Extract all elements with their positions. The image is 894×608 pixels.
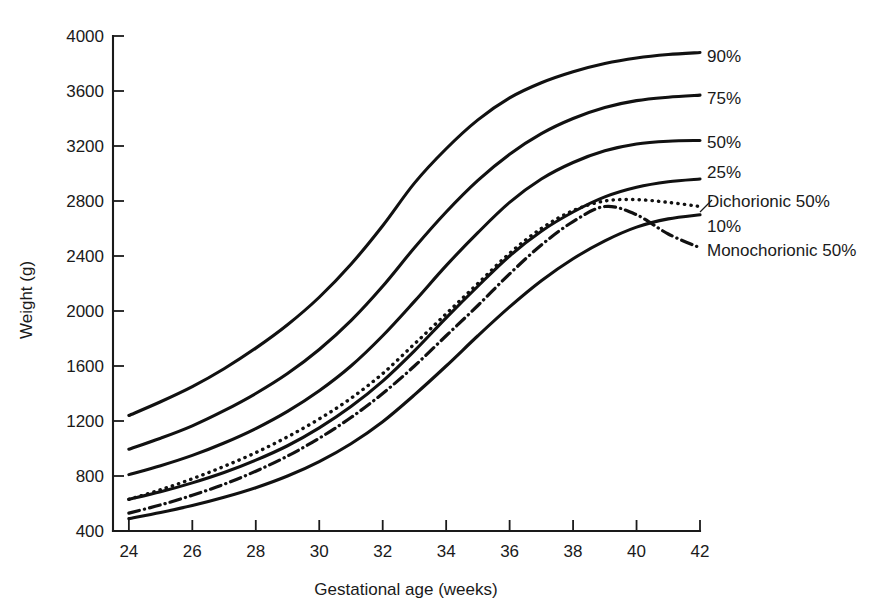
y-tick-label: 2800 — [66, 192, 104, 211]
x-tick-label: 34 — [437, 542, 456, 561]
y-tick-label: 1200 — [66, 412, 104, 431]
x-tick-label: 36 — [500, 542, 519, 561]
x-tick-label: 26 — [183, 542, 202, 561]
y-tick-label: 400 — [76, 522, 104, 541]
y-tick-label: 2400 — [66, 247, 104, 266]
series-label-dichorionic-50: Dichorionic 50% — [707, 192, 830, 211]
series-label-50: 50% — [707, 133, 741, 152]
x-tick-label: 42 — [691, 542, 710, 561]
x-tick-label: 38 — [564, 542, 583, 561]
y-tick-label: 4000 — [66, 27, 104, 46]
y-tick-label: 2000 — [66, 302, 104, 321]
series-label-25: 25% — [707, 163, 741, 182]
y-tick-label: 800 — [76, 467, 104, 486]
x-tick-label: 24 — [119, 542, 138, 561]
x-tick-label: 28 — [246, 542, 265, 561]
x-tick-label: 30 — [310, 542, 329, 561]
series-label-90: 90% — [707, 47, 741, 66]
y-tick-label: 1600 — [66, 357, 104, 376]
growth-chart-figure: Weight (g) Gestational age (weeks) 40080… — [0, 0, 894, 608]
x-tick-label: 40 — [627, 542, 646, 561]
x-tick-label: 32 — [373, 542, 392, 561]
x-axis-title: Gestational age (weeks) — [314, 580, 497, 599]
series-label-75: 75% — [707, 89, 741, 108]
series-label-monochorionic-50: Monochorionic 50% — [707, 241, 856, 260]
series-label-10: 10% — [707, 217, 741, 236]
y-axis-title: Weight (g) — [17, 261, 36, 339]
y-tick-label: 3200 — [66, 137, 104, 156]
y-tick-label: 3600 — [66, 82, 104, 101]
